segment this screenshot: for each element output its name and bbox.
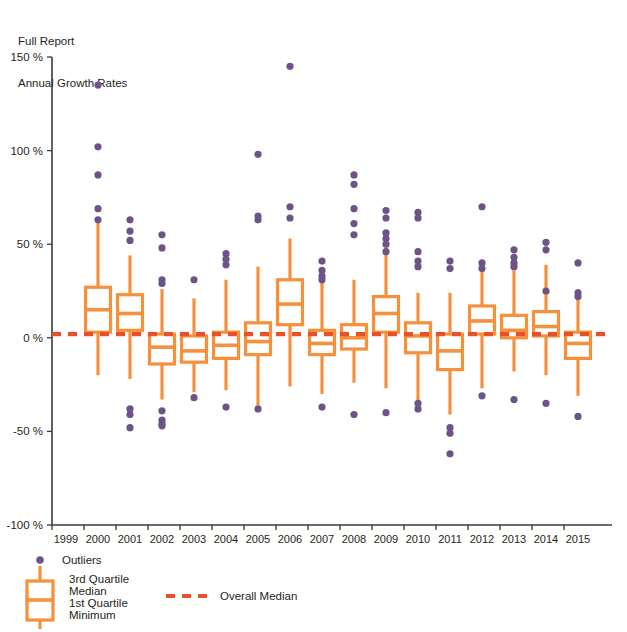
boxplot-2012 — [468, 203, 496, 399]
outlier-point — [158, 422, 165, 429]
x-tick-label-2002: 2002 — [150, 533, 174, 545]
boxplot-2010 — [404, 209, 432, 413]
legend-q1-label: 1st Quartile — [69, 597, 128, 609]
chart-root: Full Report Annual Growth Rates 150 %100… — [0, 0, 627, 632]
outlier-point — [286, 63, 293, 70]
outlier-point — [542, 239, 549, 246]
outlier-point — [382, 214, 389, 221]
outlier-point — [510, 246, 517, 253]
outlier-point — [126, 216, 133, 223]
outlier-point — [350, 171, 357, 178]
boxplot-series — [84, 63, 592, 458]
outlier-point — [446, 257, 453, 264]
chart-legend: Outliers3rd QuartileMedian1st QuartileMi… — [26, 554, 298, 629]
boxplot-2003 — [180, 276, 208, 401]
x-tick-label-2001: 2001 — [118, 533, 142, 545]
box — [278, 280, 303, 325]
outlier-point — [318, 257, 325, 264]
outlier-point — [382, 207, 389, 214]
boxplot-2015 — [564, 259, 592, 420]
outlier-point — [94, 143, 101, 150]
outlier-point — [382, 248, 389, 255]
box — [406, 323, 431, 353]
outlier-point — [414, 263, 421, 270]
boxplot-2002 — [148, 231, 176, 429]
x-tick-label-2003: 2003 — [182, 533, 206, 545]
outlier-point — [414, 405, 421, 412]
outlier-point — [350, 231, 357, 238]
outlier-point — [574, 293, 581, 300]
box — [246, 323, 271, 355]
y-tick-label: -50 % — [13, 425, 43, 437]
x-tick-label-2006: 2006 — [278, 533, 302, 545]
outlier-point — [158, 280, 165, 287]
outlier-point — [286, 203, 293, 210]
outlier-point — [222, 261, 229, 268]
y-tick-label: 50 % — [17, 238, 43, 250]
outlier-point — [478, 265, 485, 272]
outlier-point — [478, 203, 485, 210]
boxplot-2011 — [436, 257, 464, 457]
x-tick-label-2008: 2008 — [342, 533, 366, 545]
box — [182, 336, 207, 362]
legend-median-label: Median — [69, 585, 107, 597]
y-tick-label: 0 % — [23, 332, 43, 344]
legend-q3-label: 3rd Quartile — [69, 573, 129, 585]
outlier-point — [94, 216, 101, 223]
outlier-point — [126, 227, 133, 234]
outlier-point — [318, 403, 325, 410]
outlier-point — [574, 259, 581, 266]
outlier-point — [158, 407, 165, 414]
outlier-point — [446, 450, 453, 457]
outlier-point — [94, 205, 101, 212]
outlier-point — [190, 394, 197, 401]
x-axis: 1999200020012002200320042005200620072008… — [52, 525, 612, 545]
x-tick-label-2009: 2009 — [374, 533, 398, 545]
outlier-point — [382, 409, 389, 416]
box — [150, 334, 175, 364]
outlier-point — [350, 220, 357, 227]
y-tick-label: -100 % — [7, 519, 43, 531]
outlier-point — [478, 392, 485, 399]
outlier-point — [542, 400, 549, 407]
boxplot-2001 — [116, 216, 144, 431]
outlier-point — [126, 424, 133, 431]
outlier-point — [350, 411, 357, 418]
x-tick-label-2015: 2015 — [566, 533, 590, 545]
outlier-point — [542, 287, 549, 294]
outlier-point — [222, 403, 229, 410]
outlier-point — [254, 151, 261, 158]
outlier-point — [574, 413, 581, 420]
boxplot-2006 — [276, 63, 304, 387]
outlier-point — [190, 276, 197, 283]
y-tick-label: 100 % — [10, 145, 43, 157]
x-tick-label-2013: 2013 — [502, 533, 526, 545]
legend-overall-median-label: Overall Median — [220, 590, 297, 602]
legend-outliers-label: Outliers — [62, 554, 102, 566]
x-tick-label-2000: 2000 — [86, 533, 110, 545]
outlier-point — [318, 276, 325, 283]
outlier-point — [158, 231, 165, 238]
outlier-point — [510, 396, 517, 403]
outlier-point — [286, 214, 293, 221]
boxplot-2004 — [212, 250, 240, 411]
outlier-point — [510, 263, 517, 270]
x-tick-label-2005: 2005 — [246, 533, 270, 545]
outlier-point — [542, 246, 549, 253]
boxplot-2000 — [84, 81, 112, 375]
outlier-point — [94, 81, 101, 88]
outlier-point — [350, 205, 357, 212]
outlier-point — [94, 171, 101, 178]
outlier-point — [254, 405, 261, 412]
outlier-point — [446, 430, 453, 437]
outlier-point — [446, 265, 453, 272]
x-tick-label-1999: 1999 — [54, 533, 78, 545]
x-tick-label-2004: 2004 — [214, 533, 238, 545]
outlier-point — [414, 214, 421, 221]
y-axis: 150 %100 %50 %0 %-50 %-100 % — [7, 51, 52, 531]
outlier-point — [126, 237, 133, 244]
x-tick-label-2012: 2012 — [470, 533, 494, 545]
boxplot-2013 — [500, 246, 528, 403]
x-tick-label-2007: 2007 — [310, 533, 334, 545]
boxplot-2014 — [532, 239, 560, 407]
